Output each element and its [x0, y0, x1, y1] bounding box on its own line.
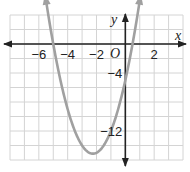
parabola-graph: −6−4−22−4−12 x y O — [0, 0, 190, 172]
axes — [3, 13, 187, 167]
curve-arrowheads — [43, 0, 143, 5]
x-tick-label: 2 — [151, 47, 158, 62]
curve-left-arrow-icon — [43, 0, 51, 5]
grid — [10, 15, 183, 160]
x-axis-label: x — [174, 28, 182, 43]
x-tick-label: −4 — [60, 47, 75, 62]
x-tick-label: −2 — [89, 47, 104, 62]
y-axis-up-arrow-icon — [122, 13, 129, 22]
tick-labels: −6−4−22−4−12 — [31, 47, 157, 139]
y-axis-label: y — [109, 12, 118, 27]
y-tick-label: −12 — [100, 124, 122, 139]
y-tick-label: −4 — [108, 66, 123, 81]
x-tick-label: −6 — [31, 47, 46, 62]
y-axis-down-arrow-icon — [122, 158, 129, 167]
x-axis-left-arrow-icon — [3, 41, 12, 48]
curve-right-arrow-icon — [135, 0, 143, 5]
origin-label: O — [110, 46, 120, 61]
